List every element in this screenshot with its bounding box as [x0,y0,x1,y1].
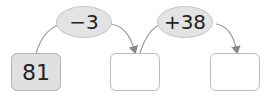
operation-oval-1: −3 [56,6,112,38]
operation-label: −3 [69,10,98,34]
answer-box-1[interactable] [110,53,160,91]
answer-box-2[interactable] [210,53,260,91]
box-value: 81 [22,60,50,85]
start-value-box: 81 [11,53,61,91]
arc-arrow-2b [216,24,237,52]
operation-oval-2: +38 [157,6,213,38]
operation-label: +38 [164,10,206,34]
arc-arrow-1b [111,24,135,52]
